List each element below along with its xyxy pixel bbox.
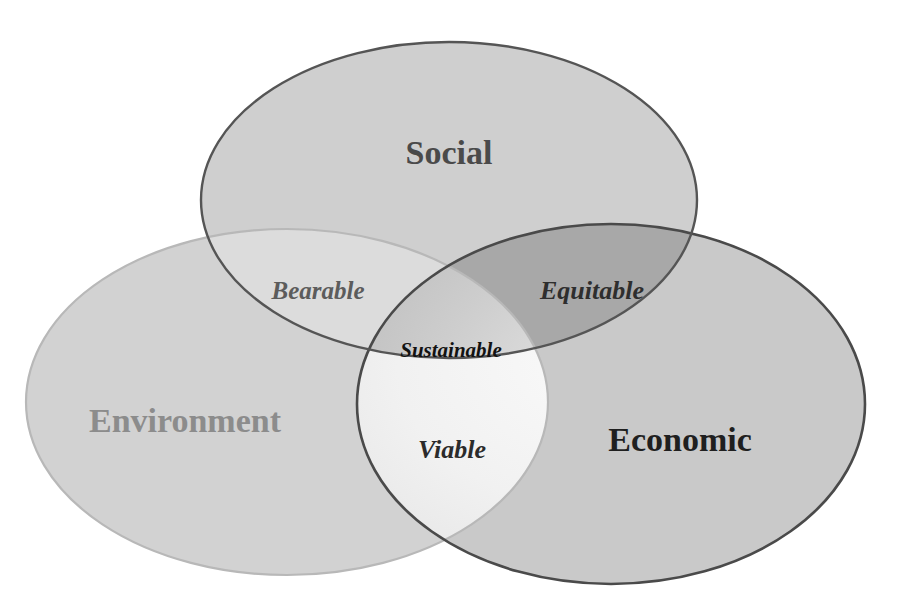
venn-diagram-canvas: Social Environment Economic Bearable Equ… [0, 0, 899, 603]
environment-label: Environment [89, 402, 282, 439]
sustainable-label: Sustainable [400, 338, 502, 362]
bearable-label: Bearable [270, 277, 364, 304]
viable-label: Viable [418, 435, 486, 464]
social-label: Social [406, 134, 493, 171]
economic-label: Economic [608, 421, 752, 458]
venn-diagram-svg: Social Environment Economic Bearable Equ… [0, 0, 899, 603]
equitable-label: Equitable [539, 276, 644, 305]
